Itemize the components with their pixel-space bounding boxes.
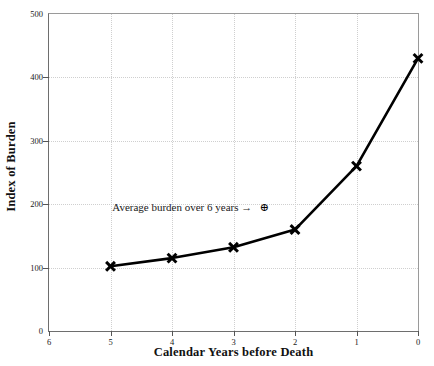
- y-axis-tick: [43, 268, 49, 269]
- axis-ticks: 01002003004005006543210: [49, 14, 418, 331]
- y-axis-tick-label: 100: [15, 262, 43, 275]
- y-axis-tick-label: 500: [15, 8, 43, 21]
- y-axis-tick-label: 300: [15, 135, 43, 148]
- y-axis-tick-label: 0: [15, 325, 43, 338]
- y-axis-tick-label: 200: [15, 198, 43, 211]
- y-axis-tick: [43, 14, 49, 15]
- x-axis-title: Calendar Years before Death: [48, 345, 419, 360]
- y-axis-tick: [43, 77, 49, 78]
- y-axis-tick: [43, 204, 49, 205]
- y-axis-tick-label: 400: [15, 71, 43, 84]
- plot-area: Average burden over 6 years →⊕ 010020030…: [48, 13, 419, 332]
- y-axis-tick: [43, 141, 49, 142]
- chart-figure: Index of Burden Average burden over 6 ye…: [0, 0, 434, 366]
- y-axis-title: Index of Burden: [0, 0, 22, 332]
